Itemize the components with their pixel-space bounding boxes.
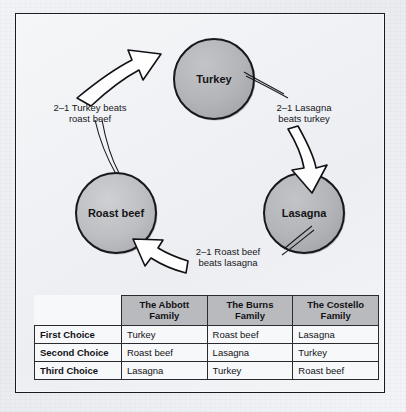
cell-first-burns: Roast beef	[207, 326, 293, 344]
column-header-costello-line2: Family	[321, 310, 351, 321]
preference-cycle-svg: Turkey Roast beef Lasagna 2–1 Turkey bea…	[16, 14, 384, 304]
column-header-burns-line1: The Burns	[226, 299, 273, 310]
column-header-abbott: The Abbott Family	[121, 296, 207, 326]
table-header: The Abbott Family The Burns Family The C…	[35, 296, 379, 326]
table-row: Second Choice Roast beef Lasagna Turkey	[35, 344, 379, 362]
cell-second-burns: Lasagna	[207, 344, 293, 362]
table-row: First Choice Turkey Roast beef Lasagna	[35, 326, 379, 344]
column-header-abbott-line2: Family	[149, 310, 179, 321]
row-header-second-choice: Second Choice	[35, 344, 122, 362]
cell-second-abbott: Roast beef	[121, 344, 207, 362]
node-label-lasagna: Lasagna	[282, 207, 328, 219]
row-header-first-choice: First Choice	[35, 326, 122, 344]
cell-third-abbott: Lasagna	[121, 362, 207, 380]
table-body: First Choice Turkey Roast beef Lasagna S…	[35, 326, 379, 380]
figure-frame: Turkey Roast beef Lasagna 2–1 Turkey bea…	[15, 13, 385, 393]
edge-label-2-line2: beats turkey	[278, 113, 330, 124]
cell-third-burns: Turkey	[207, 362, 293, 380]
column-header-costello-line1: The Costello	[307, 299, 364, 310]
edge-label-1-line1: 2–1 Turkey beats	[54, 102, 127, 113]
cell-first-costello: Lasagna	[293, 326, 379, 344]
cell-first-abbott: Turkey	[121, 326, 207, 344]
column-header-burns-line2: Family	[235, 310, 265, 321]
column-header-costello: The Costello Family	[293, 296, 379, 326]
edge-label-1-line2: roast beef	[69, 113, 112, 124]
node-label-turkey: Turkey	[196, 73, 232, 85]
column-header-burns: The Burns Family	[207, 296, 293, 326]
table-header-row: The Abbott Family The Burns Family The C…	[35, 296, 379, 326]
edge-turkey-to-lasagna: 2–1 Lasagna beats turkey	[244, 72, 332, 193]
table-row: Third Choice Lasagna Turkey Roast beef	[35, 362, 379, 380]
cell-third-costello: Roast beef	[293, 362, 379, 380]
edge-label-2-line1: 2–1 Lasagna	[277, 102, 333, 113]
preference-table: The Abbott Family The Burns Family The C…	[34, 295, 379, 380]
row-header-third-choice: Third Choice	[35, 362, 122, 380]
table-corner-cell	[35, 296, 122, 326]
node-turkey: Turkey	[174, 39, 256, 121]
arrow-roastbeef-to-turkey	[77, 50, 161, 106]
edge-label-3-line2: beats lasagna	[198, 257, 258, 268]
edge-label-3-line1: 2–1 Roast beef	[196, 246, 261, 257]
cell-second-costello: Turkey	[293, 344, 379, 362]
edge-roastbeef-to-turkey: 2–1 Turkey beats roast beef	[54, 50, 161, 174]
column-header-abbott-line1: The Abbott	[139, 299, 189, 310]
arrow-lasagna-to-roastbeef	[133, 239, 188, 273]
node-label-roast-beef: Roast beef	[88, 207, 145, 219]
